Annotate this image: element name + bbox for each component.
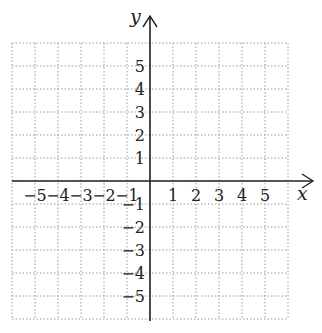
tick-label: −2 [92,186,116,205]
tick-label: −3 [121,241,145,260]
tick-label: −5 [121,287,145,306]
tick-label: 1 [168,186,178,205]
y-negative-tick-labels: −1−2−3−4−5 [121,195,145,306]
tick-label: 2 [191,186,201,205]
tick-label: −3 [69,186,93,205]
tick-label: −5 [23,186,47,205]
tick-label: 5 [135,57,145,76]
y-axis-label: y [129,5,141,27]
x-axis-label: x [297,182,308,204]
y-positive-tick-labels: 54321 [135,57,145,168]
tick-label: 1 [135,149,145,168]
tick-label: −4 [46,186,70,205]
tick-label: 4 [237,186,247,205]
tick-label: 5 [260,186,270,205]
tick-label: 4 [135,80,145,99]
tick-label: −1 [121,195,145,214]
x-positive-tick-labels: 12345 [168,186,270,205]
tick-label: 3 [135,103,145,122]
tick-label: 2 [135,126,145,145]
tick-label: −4 [121,264,145,283]
coordinate-plane: x y −5−4−3−2−1 12345 54321 −1−2−3−4−5 [0,0,322,333]
tick-label: 3 [214,186,224,205]
tick-label: −2 [121,218,145,237]
